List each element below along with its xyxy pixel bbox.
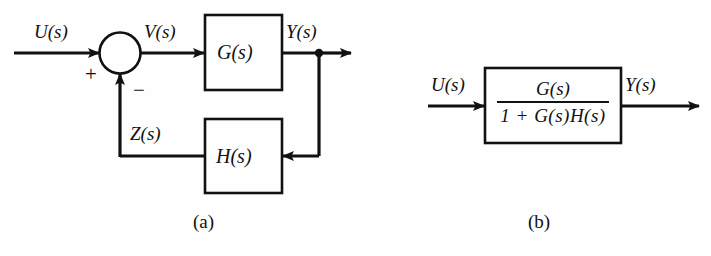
figure-block-diagram: U(s) V(s) Y(s) Z(s) + − G(s) H(s) (a) U(… — [0, 0, 711, 256]
block-g-label: G(s) — [217, 42, 253, 62]
fraction-denominator: 1 + G(s)H(s) — [494, 103, 611, 127]
transfer-function-fraction: G(s) 1 + G(s)H(s) — [497, 78, 609, 127]
summing-junction — [100, 33, 141, 74]
fraction-numerator: G(s) — [530, 78, 576, 101]
label-feedback-z: Z(s) — [130, 124, 161, 143]
label-output-y-b: Y(s) — [625, 75, 656, 94]
label-error-v: V(s) — [144, 22, 176, 41]
diagram-canvas — [0, 0, 711, 256]
caption-a: (a) — [193, 212, 214, 231]
label-input-u-a: U(s) — [34, 22, 68, 41]
label-input-u-b: U(s) — [431, 75, 465, 94]
label-output-y-a: Y(s) — [286, 22, 317, 41]
caption-b: (b) — [528, 212, 550, 231]
summing-minus-sign: − — [133, 80, 145, 101]
summing-plus-sign: + — [85, 64, 97, 85]
block-h-label: H(s) — [216, 146, 252, 166]
